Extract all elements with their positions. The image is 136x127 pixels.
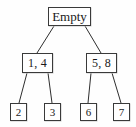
edge-root-to-left-node [37,26,54,53]
tree-node-left-internal-label: 1, 4 [28,57,47,69]
tree-leaf-2-label: 3 [50,107,56,118]
tree-leaf-4: 7 [113,103,130,121]
tree-node-right-internal-label: 5, 8 [92,57,111,69]
edge-root-to-right-node [85,26,101,53]
tree-node-root: Empty [48,7,91,26]
tree-diagram: Empty 1, 4 5, 8 2 3 6 7 [0,0,136,127]
edge-right-node-to-leaf-6 [88,73,91,103]
tree-leaf-4-label: 7 [119,107,125,118]
edge-left-node-to-leaf-3 [48,73,52,103]
tree-node-root-label: Empty [52,10,87,23]
edge-right-node-to-leaf-7 [112,73,121,103]
tree-leaf-1-label: 2 [16,107,22,118]
tree-leaf-2: 3 [44,103,61,121]
edge-left-node-to-leaf-2 [19,73,27,103]
tree-leaf-3-label: 6 [86,107,92,118]
tree-leaf-1: 2 [10,103,27,121]
tree-node-right-internal: 5, 8 [86,53,117,73]
tree-node-left-internal: 1, 4 [22,53,53,73]
tree-leaf-3: 6 [80,103,97,121]
